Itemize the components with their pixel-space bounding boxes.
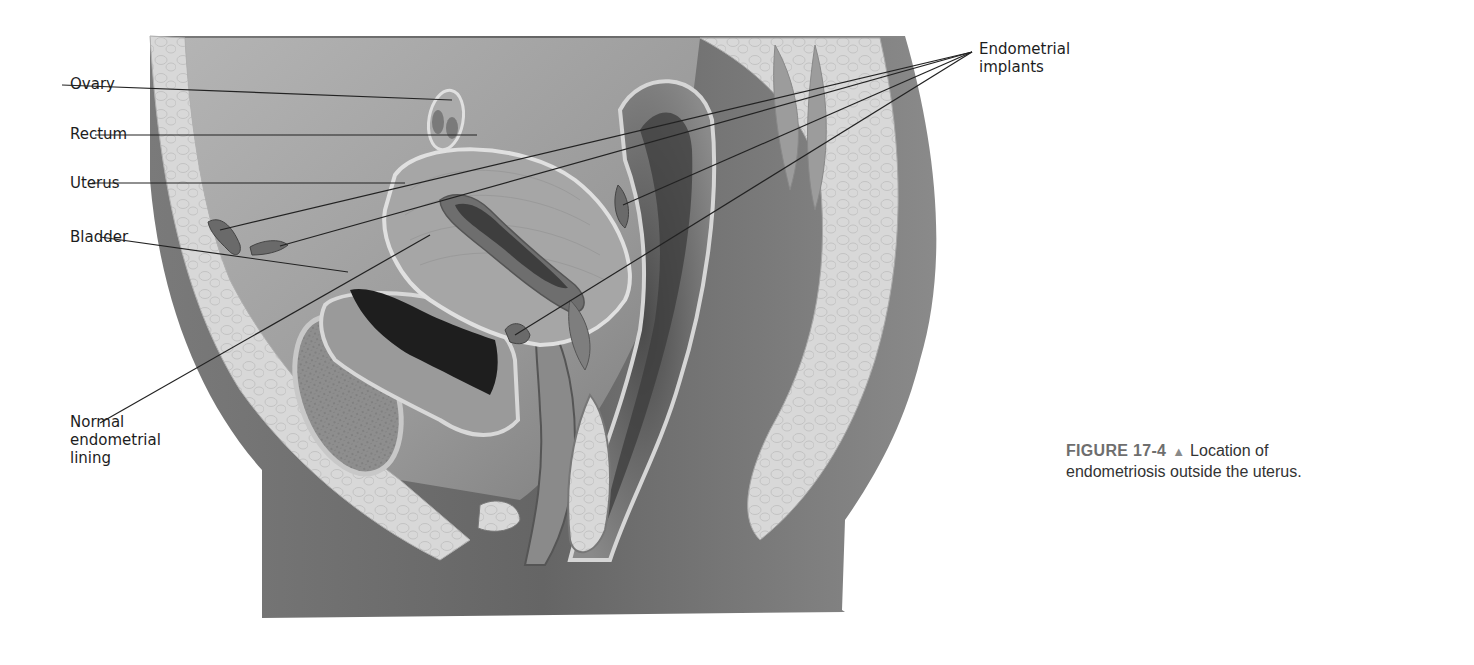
label-implants-line2: implants	[979, 58, 1070, 76]
caption-text-2: endometriosis outside the uterus.	[1066, 462, 1302, 482]
ovary-follicle	[446, 117, 458, 139]
triangle-marker-icon: ▲	[1172, 444, 1185, 459]
label-implants-line1: Endometrial	[979, 40, 1070, 58]
label-ovary: Ovary	[70, 75, 115, 93]
label-uterus: Uterus	[70, 174, 120, 192]
label-endometrial-implants: Endometrial implants	[979, 40, 1070, 76]
anatomy-figure: Ovary Rectum Uterus Bladder Normal endom…	[0, 0, 1474, 665]
pelvis-sagittal-illustration	[0, 0, 1474, 665]
label-bladder: Bladder	[70, 228, 128, 246]
figure-number: FIGURE 17-4	[1066, 442, 1166, 459]
ovary-follicle	[432, 110, 444, 134]
figure-caption: FIGURE 17-4▲Location of endometriosis ou…	[1066, 441, 1302, 482]
label-normal-endometrial-lining: Normal endometrial lining	[70, 413, 161, 467]
label-normal-line1: Normal	[70, 413, 161, 431]
caption-text-1: Location of	[1190, 442, 1268, 459]
label-normal-line3: lining	[70, 449, 161, 467]
label-normal-line2: endometrial	[70, 431, 161, 449]
caption-line1: FIGURE 17-4▲Location of	[1066, 441, 1302, 462]
label-rectum: Rectum	[70, 125, 127, 143]
